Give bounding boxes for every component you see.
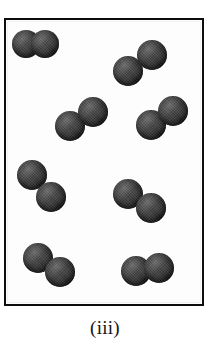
atom-sphere (158, 96, 188, 126)
atom-sphere (144, 253, 174, 283)
atom-sphere (36, 182, 66, 212)
atom-sphere (31, 30, 59, 58)
atom-sphere (137, 40, 167, 70)
particle-box-frame (4, 18, 204, 306)
atom-sphere (78, 97, 108, 127)
atom-sphere (45, 257, 75, 287)
atom-sphere (136, 193, 166, 223)
figure-caption: (iii) (0, 316, 210, 340)
figure-root: (iii) (0, 0, 210, 354)
molecule-layer (6, 20, 202, 304)
